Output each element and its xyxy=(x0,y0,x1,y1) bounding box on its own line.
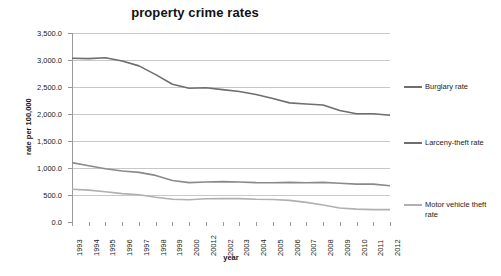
x-tick-mark xyxy=(223,222,224,226)
x-tick-mark xyxy=(89,222,90,226)
series-line xyxy=(72,163,390,186)
legend-color-swatch xyxy=(404,204,422,206)
x-tick-mark xyxy=(172,222,173,226)
y-axis: 0.0500.01,000.01,500.02,000.02,500.03,00… xyxy=(0,33,72,222)
x-tick-mark xyxy=(390,222,391,226)
x-tick-mark xyxy=(239,222,240,226)
x-tick-mark xyxy=(273,222,274,226)
y-tick-label: 1,000.0 xyxy=(37,164,62,173)
legend-color-swatch xyxy=(404,86,422,88)
chart-title: property crime rates xyxy=(0,5,390,20)
x-tick-mark xyxy=(323,222,324,226)
y-tick-label: 0.0 xyxy=(52,218,62,227)
y-tick-label: 2,500.0 xyxy=(37,83,62,92)
y-tick-label: 1,500.0 xyxy=(37,137,62,146)
y-tick-label: 2,000.0 xyxy=(37,110,62,119)
y-tick-label: 3,000.0 xyxy=(37,56,62,65)
legend-label: Motor vehicle theft rate xyxy=(425,200,497,220)
plot-svg xyxy=(72,33,390,222)
x-tick-mark xyxy=(256,222,257,226)
x-tick-mark xyxy=(72,222,73,226)
legend-color-swatch xyxy=(404,142,422,144)
y-tick-label: 3,500.0 xyxy=(37,29,62,38)
x-tick-mark xyxy=(357,222,358,226)
x-tick-mark xyxy=(105,222,106,226)
x-tick-mark xyxy=(206,222,207,226)
legend-entry[interactable]: Motor vehicle theft rate xyxy=(404,200,497,220)
x-tick-mark xyxy=(156,222,157,226)
plot-area xyxy=(72,33,390,222)
x-tick-mark xyxy=(340,222,341,226)
x-tick-label: 2012 xyxy=(393,239,402,256)
legend-label: Larceny-theft rate xyxy=(425,138,497,148)
property-crime-rates-chart: property crime rates 0.0500.01,000.01,50… xyxy=(0,0,501,276)
legend-entry[interactable]: Larceny-theft rate xyxy=(404,138,497,148)
x-axis-title: year xyxy=(72,253,390,262)
legend-label: Burglary rate xyxy=(425,82,497,92)
x-tick-mark xyxy=(139,222,140,226)
legend-entry[interactable]: Burglary rate xyxy=(404,82,497,92)
x-tick-mark xyxy=(306,222,307,226)
x-tick-mark xyxy=(122,222,123,226)
y-axis-title: rate per 100,000 xyxy=(24,98,33,155)
y-tick-label: 500.0 xyxy=(43,191,62,200)
x-tick-mark xyxy=(189,222,190,226)
series-line xyxy=(72,58,390,116)
series-line xyxy=(72,189,390,209)
x-tick-mark xyxy=(290,222,291,226)
x-tick-mark xyxy=(373,222,374,226)
